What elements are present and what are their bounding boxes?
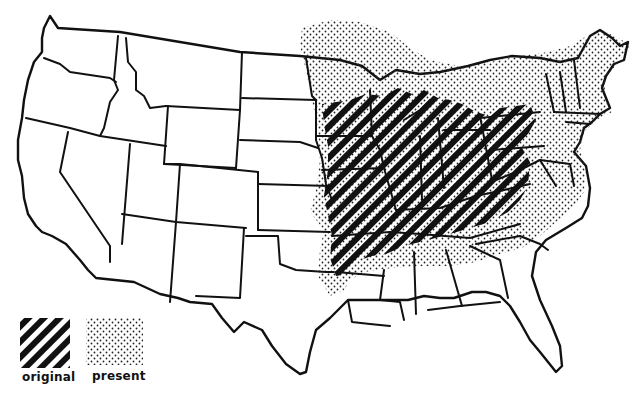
original-swatch xyxy=(20,318,70,368)
legend-item-original xyxy=(20,318,70,368)
range-map xyxy=(0,0,644,399)
legend-item-present xyxy=(86,318,143,365)
present-swatch xyxy=(86,318,143,365)
legend-label-present: present xyxy=(92,369,146,383)
legend-label-original: original xyxy=(22,370,75,384)
legend xyxy=(20,318,143,368)
